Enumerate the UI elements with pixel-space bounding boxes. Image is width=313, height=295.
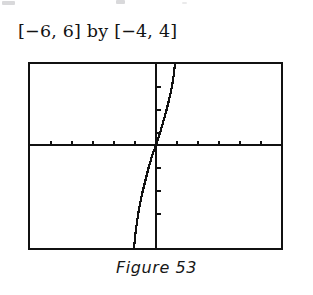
plot-canvas [30,64,281,248]
graph-screen [28,62,283,250]
curve-trace [134,64,175,248]
figure-caption: Figure 53 [0,258,313,277]
viewing-window-notation: [−6, 6] by [−4, 4] [18,18,298,44]
scan-artifacts [0,0,313,10]
scan-smudge [182,2,187,4]
scan-smudge [2,1,15,5]
scan-smudge [116,0,125,4]
